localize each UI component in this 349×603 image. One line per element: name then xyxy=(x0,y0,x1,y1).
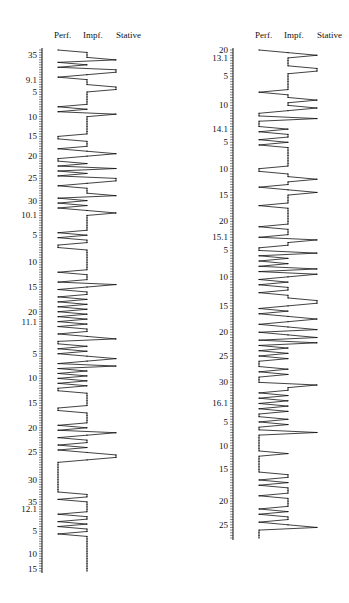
tick-label: 10 xyxy=(28,549,38,559)
tick-label: 5 xyxy=(224,417,229,427)
tick-label: 20 xyxy=(219,216,229,226)
tick-label: 9.1 xyxy=(26,75,37,85)
tick-label: 30 xyxy=(219,377,229,387)
tick-label: 5 xyxy=(224,137,229,147)
right-header-impf: Impf. xyxy=(284,30,304,40)
tick-label: 5 xyxy=(33,87,38,97)
right-header-perf: Perf. xyxy=(255,30,272,40)
tick-label: 5 xyxy=(33,349,38,359)
tick-label: 14.1 xyxy=(212,124,228,134)
tick-label: 25 xyxy=(28,447,38,457)
right-panel: Perf. Impf. Stative 2013.151014.15101520… xyxy=(212,30,342,540)
right-header-stative: Stative xyxy=(317,30,342,40)
tick-label: 5 xyxy=(33,526,38,536)
tick-label: 10 xyxy=(28,373,38,383)
tick-label: 25 xyxy=(28,173,38,183)
tick-label: 20 xyxy=(219,496,229,506)
tick-label: 11.1 xyxy=(22,317,37,327)
tick-label: 15 xyxy=(28,131,38,141)
tick-label: 30 xyxy=(28,475,38,485)
tick-label: 5 xyxy=(224,245,229,255)
left-header-stative: Stative xyxy=(116,30,141,40)
tick-label: 15 xyxy=(28,564,38,574)
left-series-line xyxy=(58,50,116,571)
tick-label: 25 xyxy=(219,520,229,530)
tick-label: 20 xyxy=(28,423,38,433)
tick-label: 5 xyxy=(33,230,38,240)
left-tick-labels: 359.15101520253010.1510152011.1510152025… xyxy=(21,50,37,574)
tick-label: 20 xyxy=(219,327,229,337)
tick-label: 25 xyxy=(219,351,229,361)
tick-label: 15 xyxy=(28,282,38,292)
left-header-perf: Perf. xyxy=(54,30,71,40)
tick-label: 10 xyxy=(28,257,38,267)
right-series-line xyxy=(259,50,317,538)
tick-label: 12.1 xyxy=(21,504,37,514)
right-tick-labels: 2013.151014.1510152015.15101520253016.15… xyxy=(212,45,228,530)
tick-label: 5 xyxy=(224,71,229,81)
tick-label: 15 xyxy=(28,398,38,408)
tick-label: 10 xyxy=(28,112,38,122)
tick-label: 15 xyxy=(219,464,229,474)
tick-label: 13.1 xyxy=(212,53,228,63)
tick-label: 35 xyxy=(28,50,38,60)
tick-label: 15.1 xyxy=(212,232,228,242)
tick-label: 15 xyxy=(219,301,229,311)
tick-label: 10.1 xyxy=(21,210,37,220)
aspect-sequence-chart: Perf. Impf. Stative 359.15101520253010.1… xyxy=(0,0,349,603)
left-panel: Perf. Impf. Stative 359.15101520253010.1… xyxy=(21,30,141,574)
tick-label: 16.1 xyxy=(212,398,228,408)
tick-label: 10 xyxy=(219,272,229,282)
tick-label: 30 xyxy=(28,196,38,206)
tick-label: 20 xyxy=(28,307,38,317)
tick-label: 10 xyxy=(219,100,229,110)
tick-label: 10 xyxy=(219,441,229,451)
tick-label: 10 xyxy=(219,164,229,174)
tick-label: 15 xyxy=(219,190,229,200)
left-header-impf: Impf. xyxy=(83,30,103,40)
tick-label: 20 xyxy=(28,151,38,161)
